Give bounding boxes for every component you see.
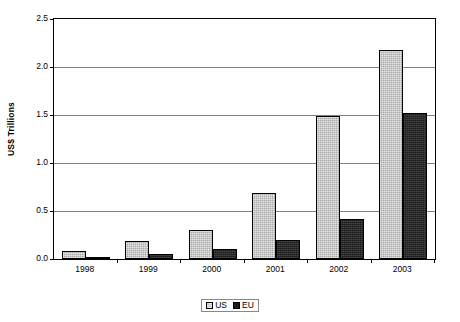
bar-eu-2000 bbox=[213, 249, 237, 259]
bar-group bbox=[372, 19, 436, 259]
legend-entry-eu[interactable]: EU bbox=[233, 301, 254, 310]
bar-us-1999 bbox=[125, 241, 149, 259]
y-axis-tick-label: 1.0 bbox=[22, 158, 48, 167]
bar-group bbox=[245, 19, 309, 259]
x-axis-tick-label-2003: 2003 bbox=[371, 264, 435, 278]
x-axis-tick-label-2000: 2000 bbox=[180, 264, 244, 278]
x-axis-tick-mark bbox=[180, 259, 181, 263]
x-axis-tick-mark bbox=[434, 259, 435, 263]
chart-legend: USEU bbox=[0, 299, 460, 312]
bar-group bbox=[54, 19, 118, 259]
bar-eu-2001 bbox=[276, 240, 300, 259]
legend-label: EU bbox=[242, 301, 254, 310]
bar-us-2003 bbox=[379, 50, 403, 259]
bar-chart: US$ Trillions 0.00.51.01.52.02.5 1998199… bbox=[0, 0, 460, 322]
x-axis-tick-label-2002: 2002 bbox=[307, 264, 371, 278]
bar-eu-1998 bbox=[86, 257, 110, 259]
legend-swatch-icon-us bbox=[206, 302, 213, 309]
y-axis-title-text: US$ Trillions bbox=[6, 102, 16, 156]
bar-us-1998 bbox=[62, 251, 86, 259]
plot-area bbox=[53, 18, 436, 260]
legend-box: USEU bbox=[201, 299, 259, 312]
y-axis-tick-label: 1.5 bbox=[22, 110, 48, 119]
x-axis-tick-labels: 199819992000200120022003 bbox=[53, 264, 434, 278]
x-axis-tick-mark bbox=[117, 259, 118, 263]
bar-series-container bbox=[54, 19, 435, 259]
bar-eu-2002 bbox=[340, 219, 364, 259]
y-axis-tick-label: 2.5 bbox=[22, 14, 48, 23]
legend-swatch-icon-eu bbox=[233, 302, 240, 309]
x-axis-tick-mark bbox=[371, 259, 372, 263]
x-axis-tick-mark bbox=[244, 259, 245, 263]
y-axis-tick-label: 2.0 bbox=[22, 62, 48, 71]
bar-group bbox=[118, 19, 182, 259]
bar-eu-1999 bbox=[149, 254, 173, 259]
y-axis-tick-label: 0.5 bbox=[22, 206, 48, 215]
bar-us-2000 bbox=[189, 230, 213, 259]
x-axis-tick-mark bbox=[307, 259, 308, 263]
bar-group bbox=[181, 19, 245, 259]
bar-us-2001 bbox=[252, 193, 276, 259]
x-axis-tick-label-1999: 1999 bbox=[117, 264, 181, 278]
x-axis-tick-label-1998: 1998 bbox=[53, 264, 117, 278]
legend-entry-us[interactable]: US bbox=[206, 301, 227, 310]
y-axis-tick-labels: 0.00.51.01.52.02.5 bbox=[22, 0, 52, 270]
x-axis-tick-label-2001: 2001 bbox=[244, 264, 308, 278]
bar-eu-2003 bbox=[403, 113, 427, 259]
bar-us-2002 bbox=[316, 116, 340, 259]
legend-label: US bbox=[215, 301, 227, 310]
bar-group bbox=[308, 19, 372, 259]
y-axis-tick-label: 0.0 bbox=[22, 254, 48, 263]
y-axis-title: US$ Trillions bbox=[0, 0, 22, 258]
